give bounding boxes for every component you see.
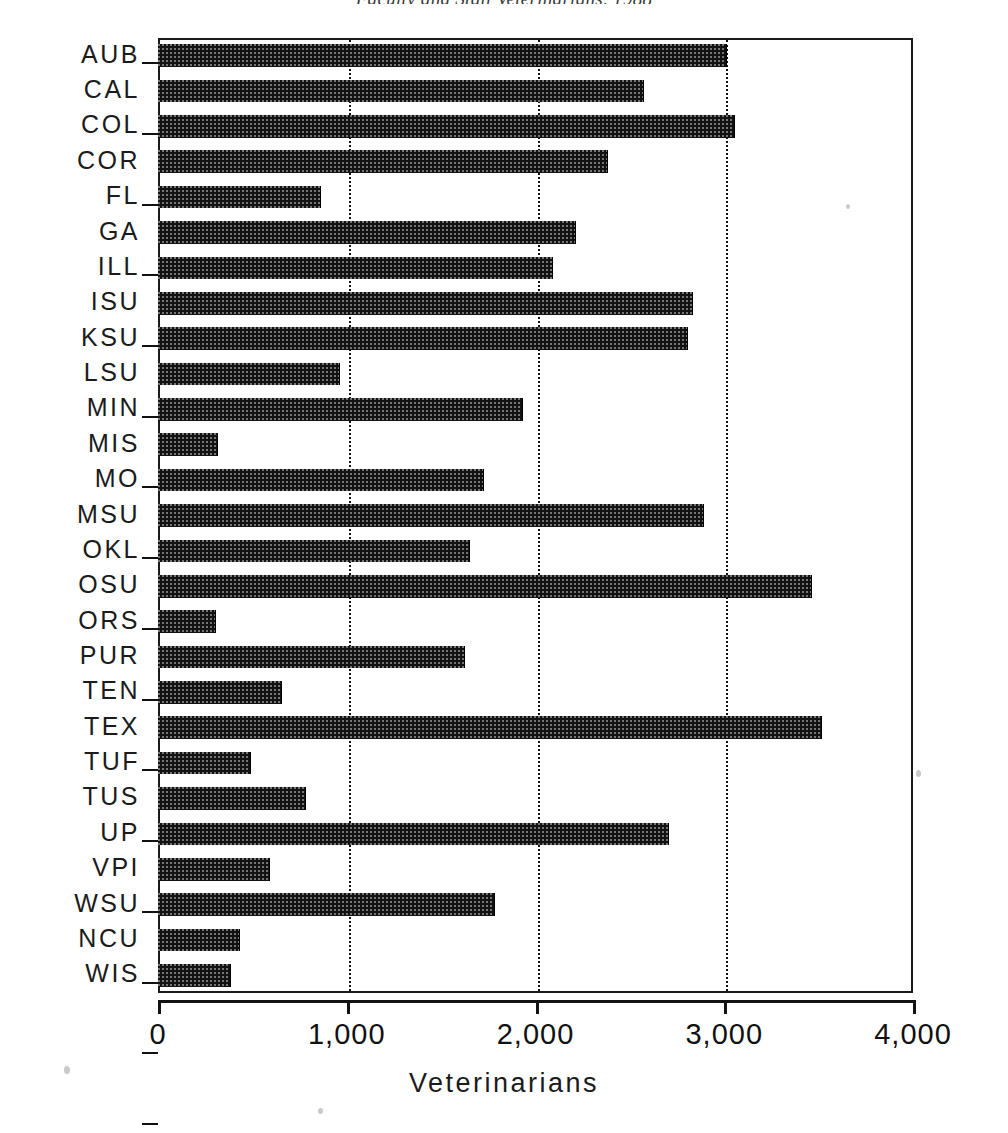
y-axis-label-mis: MIS bbox=[88, 429, 140, 458]
y-axis-label-ors: ORS bbox=[78, 606, 140, 635]
chart-title: Faculty and Staff Veterinarians, 1988 bbox=[0, 0, 1008, 4]
x-tick-0 bbox=[158, 1000, 161, 1014]
bar-fl bbox=[158, 186, 321, 209]
x-tick-label-4000: 4,000 bbox=[874, 1018, 952, 1051]
bar-tex bbox=[158, 716, 822, 739]
y-tick bbox=[142, 133, 158, 135]
bar-row bbox=[158, 44, 913, 67]
y-axis-label-aub: AUB bbox=[81, 40, 140, 69]
y-tick bbox=[142, 628, 158, 630]
bar-isu bbox=[158, 292, 693, 315]
bar-row bbox=[158, 787, 913, 810]
scan-speckle bbox=[846, 204, 850, 209]
bar-row bbox=[158, 433, 913, 456]
y-axis-label-tus: TUS bbox=[83, 782, 141, 811]
bar-vpi bbox=[158, 858, 270, 881]
y-axis-label-msu: MSU bbox=[77, 500, 140, 529]
y-axis-label-wis: WIS bbox=[85, 959, 140, 988]
y-tick bbox=[142, 699, 158, 701]
x-tick-2000 bbox=[536, 1000, 539, 1014]
bar-mis bbox=[158, 433, 218, 456]
x-tick-label-0: 0 bbox=[149, 1018, 166, 1051]
scan-speckle bbox=[916, 770, 921, 777]
bar-ncu bbox=[158, 929, 240, 952]
y-tick bbox=[142, 1123, 158, 1125]
y-axis-label-isu: ISU bbox=[91, 287, 140, 316]
y-axis-label-wsu: WSU bbox=[74, 889, 140, 918]
bar-row bbox=[158, 257, 913, 280]
y-axis-label-osu: OSU bbox=[78, 570, 140, 599]
bar-row bbox=[158, 929, 913, 952]
y-axis-label-cor: COR bbox=[77, 146, 140, 175]
y-axis-label-fl: FL bbox=[106, 181, 140, 210]
y-axis-label-ga: GA bbox=[99, 217, 140, 246]
bar-row bbox=[158, 80, 913, 103]
bar-cal bbox=[158, 80, 644, 103]
y-tick bbox=[142, 769, 158, 771]
y-axis-label-ill: ILL bbox=[98, 252, 140, 281]
y-axis-label-ksu: KSU bbox=[81, 323, 140, 352]
bar-pur bbox=[158, 646, 465, 669]
x-tick-3000 bbox=[724, 1000, 727, 1014]
y-axis-label-cal: CAL bbox=[84, 75, 140, 104]
y-tick bbox=[142, 982, 158, 984]
scan-speckle bbox=[318, 1108, 323, 1114]
bar-tus bbox=[158, 787, 306, 810]
y-tick bbox=[142, 486, 158, 488]
bar-row bbox=[158, 540, 913, 563]
x-tick-label-2000: 2,000 bbox=[497, 1018, 575, 1051]
bar-row bbox=[158, 398, 913, 421]
bar-row bbox=[158, 186, 913, 209]
bar-up bbox=[158, 823, 669, 846]
bar-row bbox=[158, 716, 913, 739]
y-axis-label-tex: TEX bbox=[84, 712, 140, 741]
bar-wsu bbox=[158, 893, 495, 916]
bar-ill bbox=[158, 257, 553, 280]
bar-chart-figure: Faculty and Staff Veterinarians, 1988 AU… bbox=[0, 0, 1008, 1133]
bar-row bbox=[158, 221, 913, 244]
bar-row bbox=[158, 292, 913, 315]
y-axis-labels: AUBCALCOLCORFLGAILLISUKSULSUMINMISMOMSUO… bbox=[0, 38, 140, 993]
bar-row bbox=[158, 823, 913, 846]
y-axis-label-col: COL bbox=[81, 110, 140, 139]
y-tick bbox=[142, 911, 158, 913]
bar-ga bbox=[158, 221, 576, 244]
bar-cor bbox=[158, 150, 608, 173]
y-axis-label-vpi: VPI bbox=[92, 853, 140, 882]
y-axis-label-mo: MO bbox=[95, 464, 140, 493]
bar-row bbox=[158, 893, 913, 916]
bar-ten bbox=[158, 681, 282, 704]
bar-ors bbox=[158, 610, 216, 633]
bar-lsu bbox=[158, 363, 340, 386]
bar-row bbox=[158, 610, 913, 633]
y-tick bbox=[142, 345, 158, 347]
bar-row bbox=[158, 363, 913, 386]
y-tick bbox=[142, 274, 158, 276]
bar-row bbox=[158, 752, 913, 775]
y-axis-label-ten: TEN bbox=[83, 676, 141, 705]
y-axis-label-ncu: NCU bbox=[78, 924, 140, 953]
bar-col bbox=[158, 115, 735, 138]
bar-row bbox=[158, 964, 913, 987]
y-axis-label-up: UP bbox=[100, 818, 140, 847]
y-axis-label-tuf: TUF bbox=[84, 747, 140, 776]
y-tick bbox=[142, 840, 158, 842]
y-tick bbox=[142, 557, 158, 559]
bar-row bbox=[158, 858, 913, 881]
bar-row bbox=[158, 150, 913, 173]
bar-wis bbox=[158, 964, 231, 987]
scan-speckle bbox=[64, 1066, 70, 1074]
bar-mo bbox=[158, 469, 484, 492]
bar-row bbox=[158, 681, 913, 704]
bar-min bbox=[158, 398, 523, 421]
x-tick-4000 bbox=[913, 1000, 916, 1014]
bar-ksu bbox=[158, 327, 688, 350]
bar-osu bbox=[158, 575, 812, 598]
bar-row bbox=[158, 469, 913, 492]
y-tick bbox=[142, 204, 158, 206]
bar-row bbox=[158, 504, 913, 527]
bar-okl bbox=[158, 540, 470, 563]
x-tick-label-3000: 3,000 bbox=[685, 1018, 763, 1051]
x-tick-label-1000: 1,000 bbox=[308, 1018, 386, 1051]
bars-container bbox=[158, 38, 913, 993]
